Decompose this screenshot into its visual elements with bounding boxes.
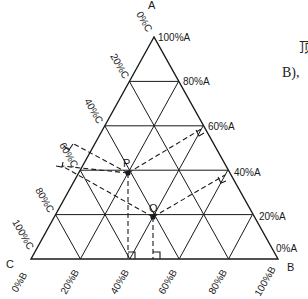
a-label-0: 0%A — [276, 243, 297, 254]
c-label-100: 100%C — [10, 218, 36, 252]
c-label-40: 40%C — [82, 97, 105, 126]
a-label-80: 80%A — [183, 76, 210, 87]
point-q-label: Q — [149, 202, 158, 214]
c-label-80: 80%C — [33, 186, 56, 215]
a-label-20: 20%A — [259, 211, 286, 222]
b-label-20: 20%B — [58, 267, 81, 296]
projection-lines — [62, 128, 225, 259]
b-label-80: 80%B — [206, 267, 229, 296]
vertex-c-label: C — [6, 258, 14, 270]
a-label-60: 60%A — [208, 121, 235, 132]
point-p — [125, 170, 130, 175]
b-label-40: 40%B — [108, 267, 131, 296]
b-label-0: 0%B — [9, 270, 29, 294]
point-q — [150, 214, 155, 219]
point-p-label: P — [123, 157, 130, 169]
b-label-60: 60%B — [156, 267, 179, 296]
c-label-0: 0%C — [134, 10, 154, 34]
a-label-100: 100%A — [158, 32, 191, 43]
c-label-60: 60%C — [57, 141, 80, 170]
a-label-40: 40%A — [234, 167, 261, 178]
side-text-2: B), — [282, 65, 300, 81]
c-label-20: 20%C — [108, 52, 131, 81]
b-label-100: 100%B — [252, 264, 278, 298]
side-text-1: 顶 — [299, 40, 308, 55]
vertex-b-label: B — [287, 261, 294, 273]
vertex-a-label: A — [148, 0, 156, 11]
ternary-diagram: P Q A B C 100%A 80%A 60%A 40%A 20%A 0%A … — [0, 0, 308, 299]
